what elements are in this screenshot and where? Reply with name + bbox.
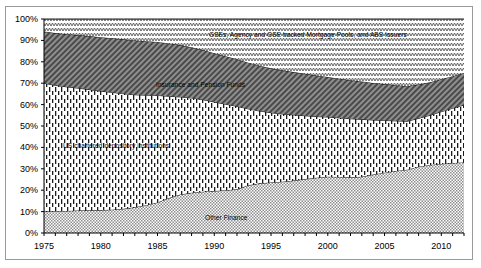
area-series-group bbox=[44, 19, 464, 233]
series-label-insurance: Insurance and Pension Funds bbox=[156, 81, 245, 88]
y-tick-label: 90% bbox=[8, 35, 38, 45]
x-tick-label: 2010 bbox=[421, 241, 461, 251]
chart-figure: 0%10%20%30%40%50%60%70%80%90%100% 197519… bbox=[0, 0, 481, 268]
series-label-depository: US chartered depository institutions bbox=[63, 142, 169, 149]
x-tick-label: 2005 bbox=[365, 241, 405, 251]
y-tick-label: 50% bbox=[8, 121, 38, 131]
y-tick-label: 20% bbox=[8, 185, 38, 195]
y-tick-label: 30% bbox=[8, 164, 38, 174]
y-tick-label: 100% bbox=[8, 14, 38, 24]
x-tick-label: 2000 bbox=[308, 241, 348, 251]
x-tick-label: 1975 bbox=[24, 241, 64, 251]
chart-frame: 0%10%20%30%40%50%60%70%80%90%100% 197519… bbox=[5, 6, 473, 260]
x-tick-label: 1980 bbox=[81, 241, 121, 251]
x-tick-label: 1990 bbox=[194, 241, 234, 251]
y-tick-label: 10% bbox=[8, 207, 38, 217]
stacked-area-plot bbox=[6, 7, 472, 259]
y-tick-label: 60% bbox=[8, 100, 38, 110]
y-tick-label: 0% bbox=[8, 228, 38, 238]
series-label-other-finance: Other Finance bbox=[205, 214, 248, 221]
y-tick-label: 70% bbox=[8, 78, 38, 88]
y-tick-label: 40% bbox=[8, 142, 38, 152]
x-tick-label: 1995 bbox=[251, 241, 291, 251]
y-tick-label: 80% bbox=[8, 57, 38, 67]
series-label-gse: GSEs, Agency and GSE backed Mortgage Poo… bbox=[209, 31, 407, 38]
x-tick-label: 1985 bbox=[138, 241, 178, 251]
